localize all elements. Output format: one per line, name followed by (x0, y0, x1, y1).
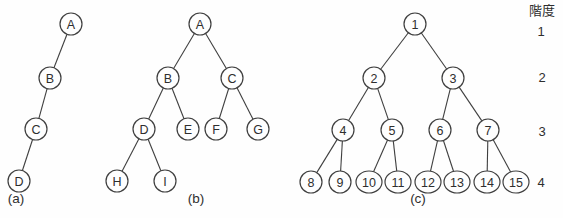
edge-D-H (122, 139, 139, 171)
edge-3-7 (459, 87, 482, 121)
legend-level-3: 3 (538, 124, 545, 139)
edge-7-15 (493, 140, 511, 173)
legend-level-1: 1 (537, 24, 544, 39)
node-label-c-2: 2 (371, 72, 378, 86)
edge-5-10 (373, 140, 387, 172)
node-label-a-D: D (14, 175, 23, 189)
node-label-c-5: 5 (389, 124, 396, 138)
tree-c: 123456789101112131415(c) (300, 13, 529, 206)
legend-level-4: 4 (537, 175, 544, 190)
edge-B-C (39, 89, 47, 119)
node-label-a-C: C (31, 123, 40, 137)
edge-D-I (148, 139, 161, 171)
edge-C-G (237, 88, 253, 119)
node-label-a-A: A (67, 18, 76, 32)
edge-B-E (172, 88, 184, 119)
caption-a: (a) (8, 191, 25, 206)
node-label-c-15: 15 (509, 176, 523, 190)
edge-4-8 (317, 139, 337, 172)
node-label-b-D: D (139, 123, 148, 137)
legend-title: 階度 (529, 3, 555, 18)
node-label-c-11: 11 (392, 176, 405, 190)
tree-a: ABCD(a) (8, 13, 82, 206)
caption-b: (b) (188, 191, 205, 206)
node-label-a-B: B (46, 72, 54, 86)
node-label-b-C: C (227, 72, 236, 86)
tree-figure: ABCD(a)ABCDEFGHI(b)123456789101112131415… (0, 0, 563, 218)
level-legend: 階度1234 (529, 3, 555, 190)
edge-7-14 (487, 141, 488, 171)
node-label-c-9: 9 (337, 176, 344, 190)
edge-2-5 (378, 88, 389, 119)
figure-svg: ABCD(a)ABCDEFGHI(b)123456789101112131415… (0, 0, 563, 218)
node-label-b-A: A (196, 18, 205, 32)
edge-2-4 (349, 87, 369, 120)
node-label-b-B: B (164, 72, 172, 86)
edge-C-D (22, 139, 32, 170)
edge-B-D (149, 88, 164, 119)
edge-3-6 (443, 89, 451, 120)
node-label-c-3: 3 (450, 72, 457, 86)
node-label-b-H: H (112, 175, 121, 189)
legend-level-2: 2 (538, 70, 545, 85)
node-label-c-7: 7 (485, 124, 492, 138)
tree-b: ABCDEFGHI(b) (106, 13, 269, 206)
node-label-b-F: F (212, 123, 220, 137)
node-label-c-6: 6 (437, 124, 444, 138)
node-label-c-12: 12 (421, 176, 435, 190)
node-label-c-4: 4 (340, 124, 347, 138)
edge-1-2 (381, 33, 409, 69)
edge-5-11 (393, 141, 396, 171)
edge-A-B (174, 33, 195, 68)
edge-6-12 (430, 141, 437, 172)
node-label-c-10: 10 (362, 176, 376, 190)
edge-C-F (219, 89, 228, 119)
node-label-c-1: 1 (412, 18, 419, 32)
edge-A-B (54, 34, 67, 68)
node-label-b-G: G (253, 123, 263, 137)
node-label-b-E: E (184, 123, 192, 137)
node-label-b-I: I (163, 175, 166, 189)
node-label-c-8: 8 (308, 176, 315, 190)
edge-4-9 (341, 141, 343, 171)
node-label-c-14: 14 (480, 176, 494, 190)
caption-c: (c) (410, 191, 426, 206)
edge-6-13 (443, 140, 453, 171)
node-label-c-13: 13 (450, 176, 464, 190)
edge-A-C (206, 33, 227, 68)
edge-1-3 (421, 33, 446, 69)
